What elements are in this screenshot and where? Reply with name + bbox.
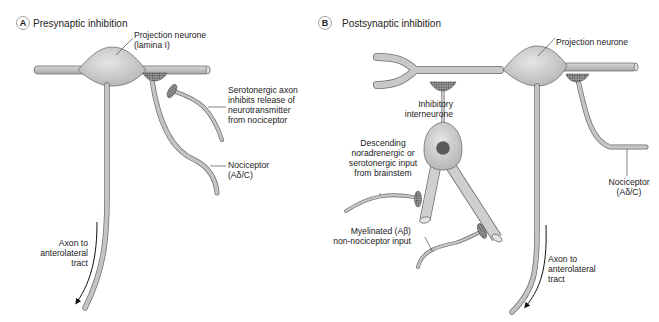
label-descending-3: serotonergic input [349, 158, 418, 168]
panel-a-title: Presynaptic inhibition [33, 18, 128, 29]
label-axon-a-3: tract [71, 258, 88, 268]
label-axon-b-3: tract [548, 274, 565, 284]
label-descending-1: Descending [360, 138, 406, 148]
label-nociceptor-a-2: (Aδ/C) [228, 170, 253, 180]
axon-a-outline [85, 85, 107, 308]
panel-a-badge: A [17, 17, 30, 30]
panel-b: B Postsynaptic inhibition [319, 17, 650, 313]
label-projection-neurone-a: Projection neurone [134, 30, 206, 40]
synaptic-terminal-interneurone [430, 82, 456, 91]
label-nociceptor-b-1: Nociceptor [608, 177, 649, 187]
label-serotonergic-3: neurotransmitter [228, 105, 291, 115]
panel-a: A Presynaptic inhibition [17, 17, 298, 309]
label-nociceptor-b-2: (Aδ/C) [617, 187, 642, 197]
soma-a [78, 47, 146, 86]
label-axon-a-1: Axon to [59, 238, 88, 248]
label-descending-4: from brainstem [354, 168, 411, 178]
synaptic-terminal-a [143, 73, 167, 81]
label-axon-b-1: Axon to [548, 254, 577, 264]
axon-b [512, 86, 537, 312]
label-lamina-i: (lamina I) [134, 40, 170, 50]
label-serotonergic-1: Serotonergic axon [228, 85, 298, 95]
projection-neurone-a [34, 47, 210, 308]
label-projection-neurone-b: Projection neurone [556, 37, 628, 47]
label-nociceptor-a-1: Nociceptor [228, 160, 269, 170]
panel-b-badge: B [319, 17, 332, 30]
label-inhibitory-2: interneurone [405, 109, 453, 119]
label-serotonergic-2: inhibits release of [228, 95, 295, 105]
label-axon-b-2: anterolateral [548, 264, 596, 274]
label-axon-a-2: anterolateral [40, 248, 88, 258]
panel-a-badge-letter: A [20, 18, 27, 28]
panel-b-title: Postsynaptic inhibition [342, 18, 441, 29]
nociceptor-b [566, 74, 646, 147]
serotonergic-axon-a [165, 83, 222, 140]
diagram-canvas: A Presynaptic inhibition [0, 0, 659, 322]
label-serotonergic-4: from nociceptor [228, 115, 287, 125]
label-myelinated-1: Myelinated (Aβ) [351, 226, 411, 236]
descending-synapse [415, 191, 422, 207]
panel-b-badge-letter: B [322, 18, 329, 28]
descending-input [346, 191, 422, 211]
label-myelinated-2: non-nociceptor input [333, 236, 411, 246]
label-inhibitory-1: Inhibitory [418, 99, 454, 109]
label-descending-2: noradrenergic or [351, 148, 414, 158]
synaptic-terminal-b [566, 74, 589, 82]
nucleus [436, 141, 450, 155]
soma-b [503, 46, 567, 86]
nociceptor-a [143, 73, 217, 193]
projection-neurone-b [377, 46, 638, 312]
